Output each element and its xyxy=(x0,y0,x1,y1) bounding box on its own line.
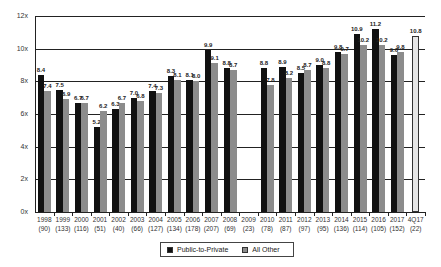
value-label: 9.8 xyxy=(390,44,410,50)
value-label: 10.2 xyxy=(353,37,373,43)
gridline xyxy=(35,16,425,17)
x-tick-label: 4Q17(22) xyxy=(405,215,427,233)
bar-all-other xyxy=(211,63,218,212)
value-label: 10.9 xyxy=(347,26,367,32)
value-label: 6.8 xyxy=(130,93,150,99)
chart-legend: Public-to-Private All Other xyxy=(160,242,294,257)
value-label: 11.2 xyxy=(365,21,385,27)
gridline xyxy=(35,49,425,50)
legend-swatch-all-other xyxy=(242,247,248,253)
value-label: 8.8 xyxy=(254,60,274,66)
value-label: 7.3 xyxy=(149,85,169,91)
bar-all-other xyxy=(341,54,348,212)
value-label: 9.9 xyxy=(198,42,218,48)
value-label: 8.9 xyxy=(272,59,292,65)
bar-all-other xyxy=(323,68,330,212)
value-label: 8.8 xyxy=(316,60,336,66)
x-axis xyxy=(35,212,425,213)
value-label: 7.8 xyxy=(260,77,280,83)
bar-all-other xyxy=(397,52,404,212)
value-label: 7.5 xyxy=(50,82,70,88)
bar-all-other xyxy=(137,101,144,212)
bar-4q17 xyxy=(412,36,419,212)
value-label: 8.7 xyxy=(223,62,243,68)
y-tick-label: 10x xyxy=(4,45,28,52)
value-label: 9.7 xyxy=(335,46,355,52)
y-tick-label: 8x xyxy=(4,77,28,84)
bar-all-other xyxy=(63,99,70,212)
legend-swatch-public-to-private xyxy=(167,247,173,253)
bar-chart: 0x2x4x6x8x10x12x1998(90)8.47.41999(133)7… xyxy=(0,0,441,267)
y-tick-label: 2x xyxy=(4,175,28,182)
value-label: 10.8 xyxy=(406,28,426,34)
y-tick-label: 6x xyxy=(4,110,28,117)
y-tick-label: 12x xyxy=(4,12,28,19)
y-axis xyxy=(35,16,36,212)
bar-all-other xyxy=(119,103,126,212)
bar-all-other xyxy=(156,93,163,212)
bar-all-other xyxy=(193,81,200,212)
bar-all-other xyxy=(360,45,367,212)
legend-label-all-other: All Other xyxy=(252,246,279,253)
bar-all-other xyxy=(100,111,107,212)
value-label: 6.7 xyxy=(75,95,95,101)
bar-all-other xyxy=(286,78,293,212)
value-label: 8.4 xyxy=(31,67,51,73)
value-label: 10.2 xyxy=(372,37,392,43)
bar-all-other xyxy=(304,70,311,212)
legend-label-public-to-private: Public-to-Private xyxy=(177,246,228,253)
bar-all-other xyxy=(379,45,386,212)
y-tick-label: 4x xyxy=(4,143,28,150)
bar-all-other xyxy=(44,91,51,212)
value-label: 8.0 xyxy=(186,73,206,79)
y-tick-label: 0x xyxy=(4,208,28,215)
bar-all-other xyxy=(267,85,274,212)
bar-all-other xyxy=(174,80,181,212)
bar-all-other xyxy=(230,70,237,212)
